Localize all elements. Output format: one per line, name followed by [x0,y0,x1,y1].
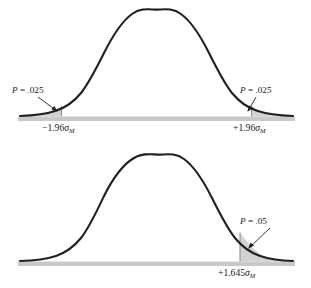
right-critical-tick-label-top: +1.96σM [233,122,266,134]
left-tail-probability-label-top: P = .025 [11,85,44,95]
figure-canvas: P = .025 P = .025 −1.96σM +1.96σM P = .0… [0,0,311,288]
panel-two-tailed-test: P = .025 P = .025 −1.96σM +1.96σM [11,9,295,134]
normal-curve-top [20,9,293,116]
right-critical-tick-label-bottom: +1.645σM [218,267,256,279]
statistical-distribution-figure: P = .025 P = .025 −1.96σM +1.96σM P = .0… [0,0,311,288]
baseline-band-bottom [18,262,295,267]
baseline-band-top [18,117,295,122]
right-tail-probability-label-top: P = .025 [239,85,272,95]
right-tail-probability-label-bottom: P = .05 [239,216,267,226]
left-critical-tick-label-top: −1.96σM [42,122,75,134]
panel-one-tailed-test: P = .05 +1.645σM [18,154,295,279]
